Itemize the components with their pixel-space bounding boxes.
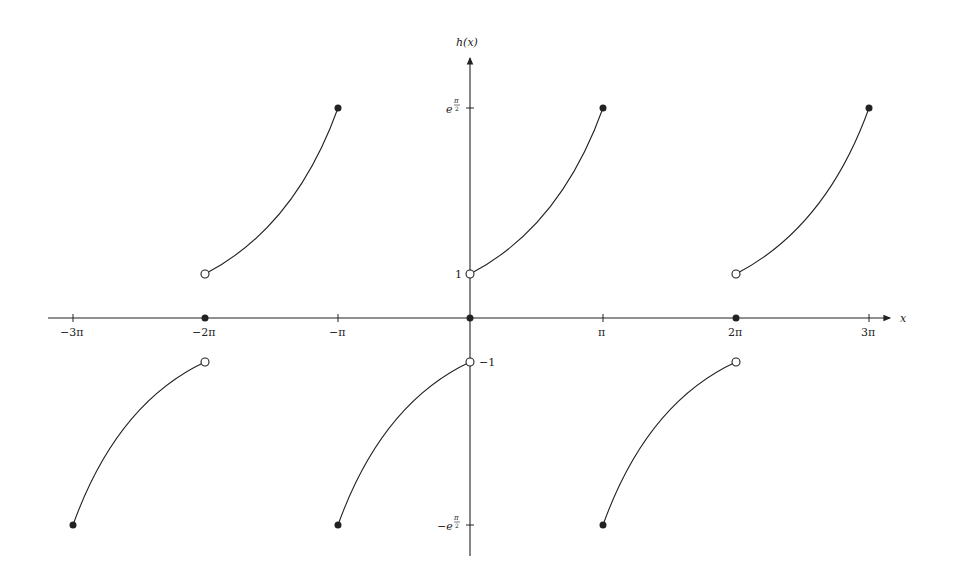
y-tick-label-bottom: −e π 2 [437,514,460,533]
filled-dot [335,105,342,112]
y-tick-label-top: e π 2 [446,97,460,116]
filled-dot [600,105,607,112]
svg-text:e: e [446,103,453,116]
svg-text:2: 2 [455,105,459,112]
function-plot: h(x) x −3π −2π −π π 2π 3π e π 2 1 −1 −e … [0,0,962,581]
curve-upper-3 [736,108,869,274]
filled-dot [70,522,77,529]
open-dot [201,270,209,278]
filled-dot [600,522,607,529]
x-tick-label: −2π [192,326,215,339]
svg-text:π: π [453,514,459,522]
filled-dot [866,105,873,112]
x-tick-label: −3π [60,326,83,339]
svg-text:2: 2 [455,522,459,529]
filled-dot-axis [202,315,209,322]
open-dot [201,358,209,366]
open-dot [732,270,740,278]
x-axis-label: x [900,312,907,325]
x-tick-label: π [598,326,605,339]
curve-lower-1 [73,362,205,525]
open-dot [732,358,740,366]
curve-upper-1 [205,108,338,274]
svg-text:−e: −e [437,520,453,533]
filled-dot-axis [467,315,474,322]
y-tick-label-neg-one: −1 [479,356,495,369]
filled-dot [335,522,342,529]
x-tick-label: 3π [861,326,875,339]
curve-lower-3 [603,362,736,525]
x-tick-label: −π [329,326,345,339]
filled-points [70,105,873,529]
curve-upper-2 [470,108,603,274]
y-axis-label: h(x) [456,36,478,49]
filled-dot-axis [733,315,740,322]
curve-lower-2 [338,362,470,525]
upper-branches [205,108,869,274]
open-dot [466,358,474,366]
lower-branches [73,362,736,525]
x-tick-label: 2π [728,326,742,339]
open-dot [466,270,474,278]
y-tick-label-one: 1 [455,268,462,281]
svg-text:π: π [453,97,459,105]
